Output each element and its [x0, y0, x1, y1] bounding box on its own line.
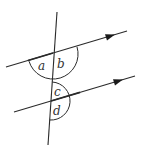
angle-label-d: d	[53, 104, 61, 118]
parallel-lines-diagram: a b c d	[0, 0, 147, 152]
angle-label-c: c	[54, 85, 61, 99]
angle-label-b: b	[57, 57, 65, 71]
upper-parallel-arrow-icon	[105, 34, 115, 40]
angle-label-a: a	[38, 59, 45, 73]
lower-parallel-arrow-icon	[113, 79, 123, 85]
